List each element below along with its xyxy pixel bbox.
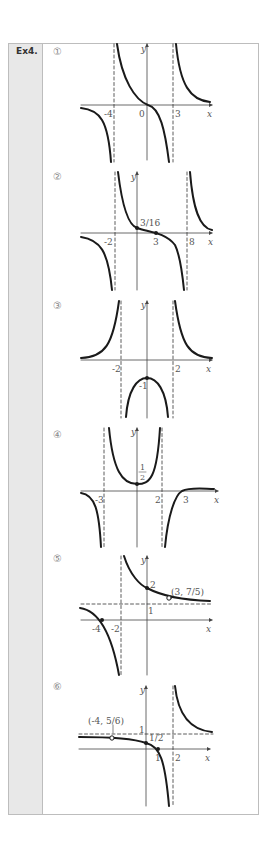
graph-5: y x -4 -2 2 1 (3, 7/5) <box>80 555 212 676</box>
svg-text:y: y <box>130 172 137 182</box>
graph-1: y x -4 0 3 <box>81 44 212 162</box>
graphs-canvas: y x -4 0 3 y x -2 3 8 3/16 y x -2 2 - <box>0 0 277 858</box>
svg-text:x: x <box>207 109 212 119</box>
svg-text:-4: -4 <box>92 624 101 634</box>
svg-text:y: y <box>139 685 146 695</box>
svg-text:3: 3 <box>183 495 189 505</box>
svg-text:1: 1 <box>140 463 145 472</box>
svg-text:x: x <box>208 237 213 247</box>
svg-text:x: x <box>206 624 211 634</box>
svg-text:-1: -1 <box>139 381 148 391</box>
svg-text:1/2: 1/2 <box>149 733 163 743</box>
svg-text:8: 8 <box>189 237 195 247</box>
svg-text:3: 3 <box>153 237 159 247</box>
svg-text:1: 1 <box>155 753 161 763</box>
graph-3: y x -2 2 -1 <box>81 300 212 418</box>
svg-text:3: 3 <box>175 109 181 119</box>
svg-text:2: 2 <box>155 495 161 505</box>
graph-4: y x -3 2 3 1 2 <box>81 427 219 547</box>
svg-text:2: 2 <box>140 473 145 482</box>
svg-text:y: y <box>140 44 147 54</box>
graph-2: y x -2 3 8 3/16 <box>81 172 213 290</box>
svg-text:y: y <box>140 555 147 565</box>
svg-text:x: x <box>206 364 211 374</box>
svg-text:3/16: 3/16 <box>140 218 160 228</box>
svg-text:x: x <box>214 495 219 505</box>
svg-text:-2: -2 <box>111 624 120 634</box>
svg-text:x: x <box>205 753 210 763</box>
svg-text:-4: -4 <box>104 109 113 119</box>
svg-text:-2: -2 <box>104 237 113 247</box>
svg-text:-2: -2 <box>112 364 121 374</box>
svg-text:2: 2 <box>175 364 181 374</box>
svg-text:2: 2 <box>175 753 181 763</box>
svg-text:y: y <box>140 300 147 310</box>
svg-text:y: y <box>130 427 137 437</box>
svg-text:(3, 7/5): (3, 7/5) <box>171 587 204 597</box>
svg-text:1: 1 <box>139 725 145 735</box>
graph-6: y x (-4, 5/6) 1 1/2 1 2 <box>79 685 213 806</box>
svg-text:-3: -3 <box>95 495 104 505</box>
svg-text:0: 0 <box>139 109 145 119</box>
svg-text:2: 2 <box>150 580 156 590</box>
svg-text:1: 1 <box>148 606 154 616</box>
svg-text:(-4, 5/6): (-4, 5/6) <box>88 716 124 726</box>
